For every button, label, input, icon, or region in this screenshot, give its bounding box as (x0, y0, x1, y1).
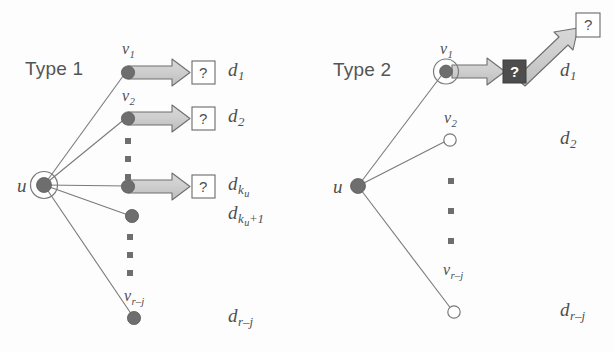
panel-title-type-1: Type 1 (25, 59, 83, 78)
question-mark-1-type1: ? (199, 65, 207, 80)
label-d2-type1: d2 (228, 106, 244, 125)
label-v1-sub-type1: 1 (130, 48, 135, 60)
label-drj-base-type1: d (228, 305, 238, 326)
type2-edges (358, 76, 452, 310)
ellipsis-dot (125, 174, 131, 180)
label-d1-type2: d1 (560, 60, 576, 79)
type1-nodes (31, 66, 141, 325)
label-v2-type2: v2 (444, 110, 457, 126)
node-vrj (127, 311, 140, 324)
label-v1-base-type2: v (440, 40, 447, 57)
ellipsis-dot (125, 138, 131, 144)
label-vrj-base-type1: v (124, 287, 131, 304)
label-d2-sub-type1: 2 (238, 114, 244, 129)
label-d1-sub-type2: 1 (570, 68, 576, 83)
question-mark-2-type1: ? (199, 111, 207, 126)
node-v1 (121, 66, 134, 79)
label-u-type1: u (17, 176, 27, 195)
question-mark-light-type2: ? (584, 17, 592, 32)
type1-ellipsis-upper (125, 138, 131, 180)
label-v1-type2: v1 (440, 41, 453, 57)
question-mark-ku-type1: ? (199, 179, 207, 194)
label-dku-sub-type1: ku (238, 182, 249, 197)
ellipsis-dot (127, 252, 133, 258)
node-vku (121, 180, 134, 193)
label-drj-sub-type2: r–j (570, 308, 585, 323)
arrow-vku-to-box (128, 173, 190, 200)
label-v1-type1: v1 (122, 41, 135, 57)
question-mark-dark-type2: ? (510, 64, 519, 79)
label-drj-type2: dr–j (560, 300, 585, 319)
node-v1 (440, 65, 453, 78)
ellipsis-dot (127, 234, 133, 240)
type2-nodes (351, 59, 461, 318)
ellipsis-dot (448, 238, 454, 244)
label-v2-sub-type2: 2 (452, 117, 457, 129)
ellipsis-dot (448, 178, 454, 184)
type2-ellipsis (448, 178, 454, 244)
label-dku1-k-type1: k (238, 211, 244, 226)
label-dku-base-type1: d (228, 173, 238, 194)
label-dku1-u-type1: u (244, 217, 249, 228)
label-v1-sub-type2: 1 (448, 48, 453, 60)
label-d2-type2: d2 (560, 128, 576, 147)
label-d2-base-type1: d (228, 105, 238, 126)
edge-u-vku (44, 185, 128, 186)
arrow-v1-to-dark-box (452, 58, 505, 85)
label-vrj-type2: vr–j (443, 262, 463, 278)
panel-title-type-2: Type 2 (333, 60, 391, 79)
label-v2-base-type2: v (444, 109, 451, 126)
node-u (37, 178, 52, 193)
edge-u-vrj (358, 186, 452, 310)
label-dku1-sub-type1: ku+1 (238, 211, 264, 226)
node-u (351, 179, 366, 194)
node-v2 (121, 112, 134, 125)
node-v2 (444, 134, 456, 146)
label-d2-sub-type2: 2 (570, 136, 576, 151)
label-d1-base-type1: d (228, 59, 238, 80)
label-v2-base-type1: v (122, 87, 129, 104)
label-dku1-tail-type1: +1 (249, 211, 264, 226)
arrow-v1-to-box (128, 59, 190, 86)
label-u-type2: u (333, 177, 343, 196)
label-d2-base-type2: d (560, 127, 570, 148)
type1-ellipsis-lower (127, 234, 133, 276)
arrow-v2-to-box (128, 105, 190, 132)
label-dku1-base-type1: d (228, 202, 238, 223)
figure-canvas: Type 1 u v1 v2 vr–j d1 d2 dku dku+1 dr–j… (0, 0, 614, 352)
label-dku-type1: dku (228, 174, 248, 193)
label-d1-type1: d1 (228, 60, 244, 79)
label-dku-u-type1: u (244, 188, 249, 199)
edge-u-v2 (358, 141, 446, 186)
label-d1-base-type2: d (560, 59, 570, 80)
label-drj-type1: dr–j (228, 306, 253, 325)
edge-u-vrj (44, 185, 134, 318)
label-vrj-base-type2: v (443, 261, 450, 278)
label-v1-base-type1: v (122, 40, 129, 57)
ellipsis-dot (448, 208, 454, 214)
ellipsis-dot (125, 156, 131, 162)
label-drj-sub-type1: r–j (238, 314, 253, 329)
label-dku-k-type1: k (238, 182, 244, 197)
node-vku-plus-1 (125, 209, 138, 222)
label-vrj-sub-type1: r–j (132, 295, 145, 307)
label-dku1-type1: dku+1 (228, 203, 264, 222)
label-drj-base-type2: d (560, 299, 570, 320)
label-vrj-sub-type2: r–j (451, 269, 464, 281)
diagram-svg (0, 0, 614, 352)
ellipsis-dot (127, 270, 133, 276)
label-vrj-type1: vr–j (124, 288, 144, 304)
label-v2-type1: v2 (122, 88, 135, 104)
type1-edges (44, 72, 134, 318)
edge-u-v1 (358, 76, 441, 186)
label-v2-sub-type1: 2 (130, 95, 135, 107)
label-d1-sub-type1: 1 (238, 68, 244, 83)
node-vrj (448, 306, 460, 318)
